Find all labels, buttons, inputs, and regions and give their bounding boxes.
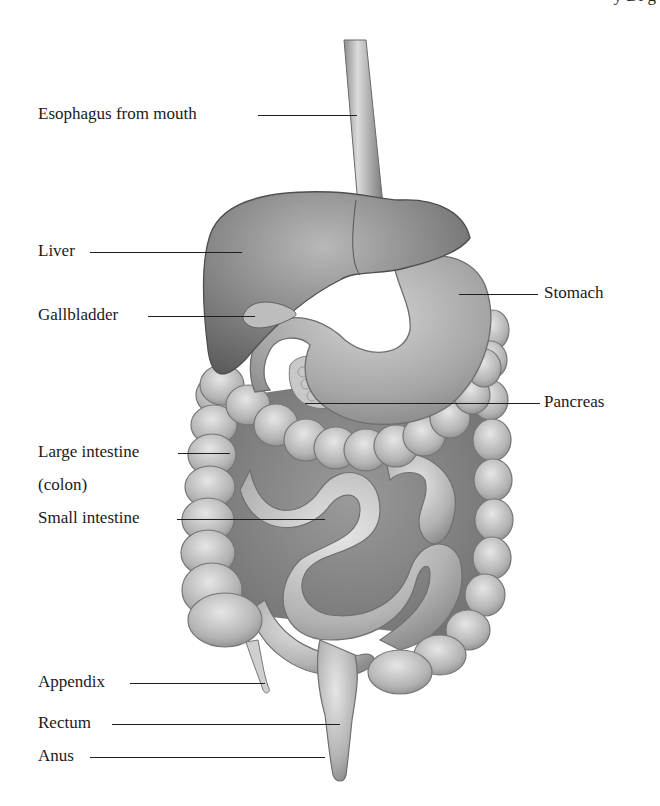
leader-line-large-intestine [178,453,230,454]
leader-line-rectum [112,724,340,725]
label-appendix: Appendix [38,672,105,692]
label-stomach: Stomach [544,283,604,303]
label-large-intestine: Large intestine [38,442,139,462]
label-gallbladder: Gallbladder [38,305,118,325]
leader-line-esophagus [258,115,357,116]
label-liver: Liver [38,241,75,261]
leader-line-liver [90,252,242,253]
leader-line-stomach [459,294,538,295]
label-esophagus: Esophagus from mouth [38,104,197,124]
label-large-intestine-colon: (colon) [38,475,87,495]
leader-line-small-intestine [177,519,325,520]
digestive-system-figure: y Di g [0,0,660,806]
label-anus: Anus [38,746,74,766]
label-small-intestine: Small intestine [38,508,140,528]
label-pancreas: Pancreas [544,392,604,412]
appendix-shape [246,640,269,693]
label-rectum: Rectum [38,713,91,733]
leader-line-appendix [130,683,265,684]
leader-line-anus [90,757,325,758]
rectum-shape [318,640,358,781]
leader-line-pancreas [305,403,540,404]
esophagus-shape [344,40,383,205]
leader-line-gallbladder [148,316,255,317]
